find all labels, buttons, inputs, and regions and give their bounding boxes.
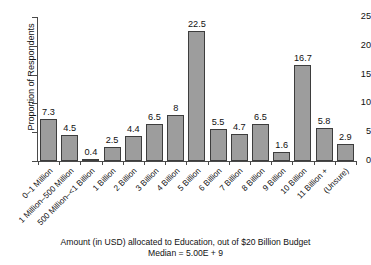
bar-value-label: 5.8: [309, 117, 340, 126]
x-tick-mark: [292, 161, 293, 165]
x-tick-mark: [335, 161, 336, 165]
x-tick-mark: [208, 161, 209, 165]
x-tick-mark: [356, 161, 357, 165]
bar: [231, 134, 248, 161]
y-axis-line: [37, 17, 38, 162]
y-tick-mark: [32, 17, 37, 18]
y-axis-title: Proportion of Respondents: [26, 0, 36, 157]
bar-value-label: 16.7: [287, 54, 318, 63]
x-tick-mark: [144, 161, 145, 165]
bar: [188, 31, 205, 161]
bar: [210, 129, 227, 161]
x-tick-mark: [123, 161, 124, 165]
y-tick-label: 25: [345, 12, 371, 21]
bar-value-label: 6.5: [245, 113, 276, 122]
bar-value-label: 0.4: [75, 148, 106, 157]
median-annotation: Median = 5.00E + 9: [0, 248, 371, 259]
bar-value-label: 22.5: [181, 20, 212, 29]
bar-value-label: 6.5: [139, 113, 170, 122]
bar: [125, 136, 142, 161]
x-tick-mark: [38, 161, 39, 165]
bar-value-label: 7.3: [33, 108, 64, 117]
x-tick-mark: [165, 161, 166, 165]
y-tick-label: 10: [345, 98, 371, 107]
bar-value-label: 4.5: [54, 124, 85, 133]
bar: [146, 124, 163, 161]
y-tick-label: 20: [345, 41, 371, 50]
x-axis-caption: Amount (in USD) allocated to Education, …: [0, 237, 371, 248]
x-tick-mark: [59, 161, 60, 165]
bar-value-label: 1.6: [266, 141, 297, 150]
x-axis-line: [37, 161, 357, 162]
y-tick-mark: [32, 103, 37, 104]
bar: [337, 144, 354, 161]
x-tick-mark: [80, 161, 81, 165]
x-tick-mark: [314, 161, 315, 165]
bar-value-label: 2.5: [97, 136, 128, 145]
y-tick-mark: [32, 132, 37, 133]
x-tick-mark: [229, 161, 230, 165]
y-tick-label: 15: [345, 70, 371, 79]
y-tick-mark: [32, 46, 37, 47]
bar: [82, 159, 99, 161]
bar: [167, 115, 184, 161]
bar: [104, 147, 121, 161]
x-tick-mark: [102, 161, 103, 165]
bar-value-label: 8: [160, 104, 191, 113]
bar-value-label: 2.9: [330, 133, 361, 142]
y-tick-mark: [32, 161, 37, 162]
x-tick-mark: [271, 161, 272, 165]
bar: [294, 65, 311, 161]
x-tick-mark: [186, 161, 187, 165]
y-tick-mark: [32, 75, 37, 76]
x-tick-mark: [250, 161, 251, 165]
bar-chart-figure: Proportion of Respondents 0510152025 7.3…: [0, 0, 371, 265]
bar-value-label: 4.4: [118, 125, 149, 134]
bar-value-label: 4.7: [224, 123, 255, 132]
bar: [273, 152, 290, 161]
